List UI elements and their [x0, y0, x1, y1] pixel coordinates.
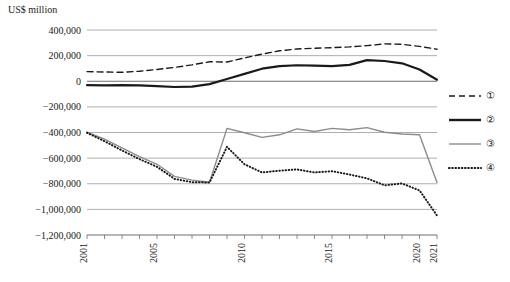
legend-item[interactable]: ④	[448, 156, 506, 180]
x-axis-tick-label: 2005	[148, 243, 159, 263]
legend-item[interactable]: ②	[448, 108, 506, 132]
legend-swatch-dotted-icon	[448, 163, 482, 173]
legend-item-label: ①	[486, 91, 495, 101]
x-axis-tick-label: 2001	[78, 243, 89, 263]
legend-swatch-dashed-icon	[448, 91, 482, 101]
gridlines-group	[87, 30, 437, 209]
legend-swatch-solid-thin-icon	[448, 139, 482, 149]
y-axis-tick-labels: 400,000200,0000−200,000−400,000−600,000−…	[35, 25, 81, 241]
x-axis-tick-labels: 200120052010201520202021	[78, 243, 439, 263]
legend-item-label: ③	[486, 139, 495, 149]
x-axis-tick-label: 2015	[323, 243, 334, 263]
chart-plot-area: 400,000200,0000−200,000−400,000−600,000−…	[0, 0, 510, 282]
y-axis-tick-label: −200,000	[43, 101, 81, 112]
y-axis-tick-label: 0	[76, 76, 81, 87]
y-axis-tick-label: −800,000	[43, 178, 81, 189]
data-series-group	[87, 44, 437, 216]
x-axis-tick-label: 2020	[411, 243, 422, 263]
chart-container: US$ million 400,000200,0000−200,000−400,…	[0, 0, 510, 282]
legend-item-label: ②	[486, 115, 495, 125]
series-line	[87, 133, 437, 216]
y-axis-tick-label: −1,200,000	[35, 230, 81, 241]
y-axis-tick-label: −1,000,000	[35, 204, 81, 215]
legend-item[interactable]: ①	[448, 84, 506, 108]
legend-swatch-solid-thick-icon	[448, 115, 482, 125]
x-axis-tick-label: 2010	[236, 243, 247, 263]
series-line	[87, 128, 437, 183]
y-axis-tick-label: −400,000	[43, 127, 81, 138]
legend-item-label: ④	[486, 163, 495, 173]
y-axis-tick-label: −600,000	[43, 153, 81, 164]
y-axis-tick-label: 200,000	[49, 50, 82, 61]
x-axis-ticks	[87, 235, 437, 239]
y-axis-tick-label: 400,000	[49, 25, 82, 36]
chart-legend: ① ② ③ ④	[448, 84, 506, 180]
x-axis-tick-label: 2021	[428, 243, 439, 263]
series-line	[87, 60, 437, 87]
legend-item[interactable]: ③	[448, 132, 506, 156]
